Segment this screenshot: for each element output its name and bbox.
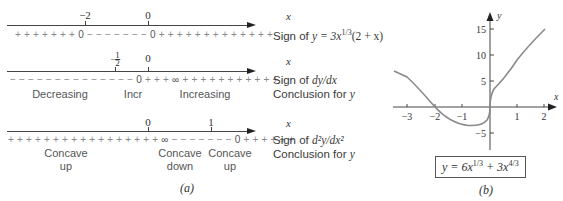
conclusion-incr: Incr	[124, 88, 142, 101]
svg-text:15: 15	[476, 24, 486, 35]
conclusion-concave-up: Concaveup	[44, 147, 87, 173]
svg-text:−2: −2	[430, 111, 441, 122]
sign-sequence: + + + + + + + 0 − − − − − − − 0 + + + + …	[15, 29, 273, 40]
conclusion-concave-up: Concaveup	[208, 147, 251, 173]
axis-var-x: x	[286, 55, 291, 67]
y-ticks	[490, 29, 494, 133]
row-label-sign-of-d2ydx2: Sign of d²y/dx²	[273, 134, 344, 146]
arrow-right-icon	[247, 22, 256, 28]
tick-mark	[148, 127, 149, 132]
row-label-conclusion: Conclusion for y	[273, 148, 355, 160]
row-label-sign-of-dydx: Sign of dy/dx	[273, 74, 337, 86]
y-axis-label: y	[496, 10, 502, 21]
row-label-conclusion: Conclusion for y	[273, 88, 355, 100]
number-line	[7, 71, 249, 72]
number-line	[7, 25, 249, 26]
caption-b: (b)	[479, 183, 493, 198]
equation-box: y = 6x1/3 + 3x4/3	[435, 156, 526, 178]
row-label-sign-of-y: Sign of y = 3x1/3(2 + x)	[273, 28, 383, 42]
svg-text:−5: −5	[475, 128, 486, 139]
sign-sequence: + + + + + + + + + + + + + + + + + ∞ − − …	[8, 134, 295, 145]
conclusion-concave-down: Concavedown	[158, 147, 201, 173]
tick-mark	[115, 67, 116, 72]
tick-mark	[211, 127, 212, 132]
conclusion-increasing: Increasing	[180, 88, 231, 101]
tick-label-0: 0	[145, 52, 151, 64]
x-axis-label: x	[553, 91, 559, 102]
tick-mark	[85, 21, 86, 26]
caption-a: (a)	[180, 181, 194, 196]
svg-text:1: 1	[515, 111, 520, 122]
tick-mark	[148, 67, 149, 72]
conclusion-decreasing: Decreasing	[32, 88, 88, 101]
x-axis-arrow-icon	[548, 104, 557, 111]
y-axis-arrow-icon	[487, 12, 494, 21]
tick-label-neg-half: −12	[110, 52, 120, 67]
x-tick-labels: −3 −2 −1 1 2	[402, 111, 547, 122]
function-graph: −3 −2 −1 1 2 15 10 5 −5 y x	[380, 0, 563, 170]
svg-text:−1: −1	[457, 111, 468, 122]
svg-text:10: 10	[476, 50, 486, 61]
tick-label-0: 0	[145, 9, 151, 21]
sign-sequence: − − − − − − − − − − − − − − 0 + + + ∞ + …	[10, 74, 279, 85]
tick-label-neg2: −2	[79, 9, 91, 21]
number-line	[7, 131, 249, 132]
svg-text:5: 5	[481, 76, 486, 87]
function-curve	[394, 29, 545, 126]
svg-text:2: 2	[542, 111, 547, 122]
axis-var-x: x	[286, 10, 291, 22]
tick-mark	[148, 21, 149, 26]
svg-text:−3: −3	[402, 111, 413, 122]
axis-var-x: x	[286, 117, 291, 129]
